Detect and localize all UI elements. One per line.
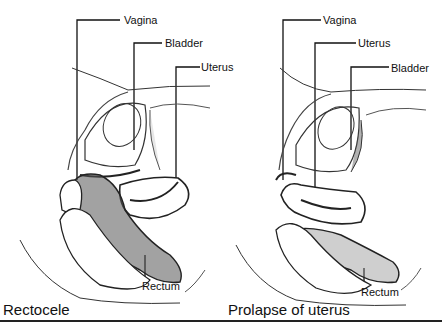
label-rectum: Rectum xyxy=(142,280,180,292)
label-vagina: Vagina xyxy=(323,14,356,26)
label-bladder: Bladder xyxy=(165,37,203,49)
rectocele-panel: Vagina Bladder Uterus Rectum xyxy=(0,0,221,310)
label-rectum: Rectum xyxy=(361,286,399,298)
prolapse-illustration xyxy=(221,0,442,310)
bottom-rule xyxy=(0,320,442,322)
label-vagina: Vagina xyxy=(124,14,157,26)
caption-rectocele: Rectocele xyxy=(3,301,70,318)
caption-prolapse: Prolapse of uterus xyxy=(228,301,350,318)
prolapse-panel: Vagina Uterus Bladder Rectum xyxy=(221,0,442,310)
label-uterus: Uterus xyxy=(358,37,390,49)
label-bladder: Bladder xyxy=(391,62,429,74)
